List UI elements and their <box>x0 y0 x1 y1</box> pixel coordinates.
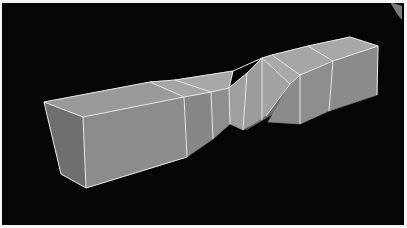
scene-canvas[interactable] <box>2 3 404 225</box>
3d-viewport[interactable]: 3D perspective viewport twisted box mesh <box>2 3 404 225</box>
mesh-face-front-seg-3 <box>211 88 230 139</box>
mesh-faces <box>44 37 378 188</box>
view-gizmo-icon[interactable] <box>390 3 402 20</box>
mesh-face-front-seg-2 <box>184 92 213 157</box>
